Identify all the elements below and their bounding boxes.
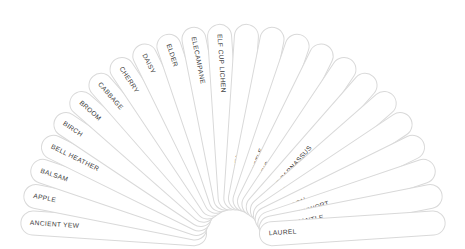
fan-segment-label: APPLE — [33, 193, 57, 204]
fan-segment-label: ELF CUP LICHEN — [216, 33, 226, 92]
radial-fan-diagram: ANCIENT YEWAPPLEBALSAMBELL HEATHERBIRCHB… — [0, 0, 465, 249]
fan-segment-label: DAISY — [140, 52, 155, 74]
fan-segment-label: CHERRY — [117, 65, 139, 93]
fan-segment-label: ELECAMPANE — [190, 36, 206, 84]
fan-segment-label: BALSAM — [40, 168, 69, 184]
fan-segment-label: ANCIENT YEW — [30, 219, 80, 229]
fan-segment-label: ELDER — [165, 43, 179, 68]
fan-segment-label: BIRCH — [62, 120, 84, 138]
fan-segment-label: LAUREL — [269, 229, 297, 237]
